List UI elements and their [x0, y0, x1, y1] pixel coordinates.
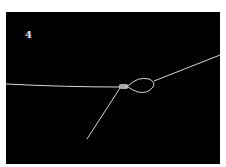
- knot-line-drawing: [6, 12, 220, 164]
- knot-photo: 4: [6, 12, 220, 164]
